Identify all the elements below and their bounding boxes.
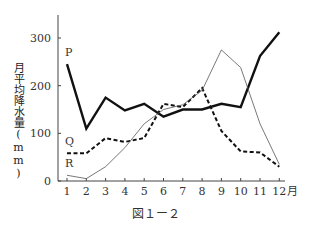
- y-tick-label: 0: [44, 175, 51, 188]
- x-tick-label: 11: [253, 185, 267, 198]
- x-tick-label: 10: [234, 185, 248, 198]
- x-tick-label: 1: [64, 185, 71, 198]
- x-tick-label: 12: [272, 185, 286, 198]
- x-tick-label: 3: [102, 185, 109, 198]
- y-tick-label: 200: [30, 80, 51, 93]
- series-line-q: [67, 88, 279, 167]
- series-label-r: R: [65, 157, 74, 170]
- x-tick-label: 2: [83, 185, 90, 198]
- series-label-p: P: [65, 46, 73, 59]
- x-tick-label: 6: [160, 185, 167, 198]
- figure-caption: 図１ー２: [0, 204, 312, 221]
- x-tick-label: 5: [141, 185, 148, 198]
- y-tick-label: 300: [30, 32, 51, 45]
- y-axis-label: 月平均降水量(mm): [8, 62, 24, 180]
- series-label-q: Q: [65, 135, 74, 148]
- y-tick-label: 100: [30, 127, 51, 140]
- series-line-p: [67, 32, 279, 128]
- x-tick-label: 4: [121, 185, 128, 198]
- x-tick-label: 7: [179, 185, 186, 198]
- x-tick-label: 9: [218, 185, 225, 198]
- x-tick-label: 8: [199, 185, 206, 198]
- x-axis-unit: 月: [287, 185, 298, 198]
